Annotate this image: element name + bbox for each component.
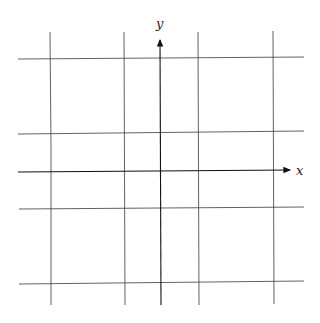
horizontal-line bbox=[18, 131, 304, 134]
vertical-line bbox=[124, 32, 125, 305]
vertical-line bbox=[198, 32, 199, 305]
vertical-grid-lines bbox=[50, 31, 274, 305]
vertical-line bbox=[50, 32, 51, 146]
vertical-line bbox=[273, 31, 274, 304]
horizontal-line bbox=[19, 281, 304, 284]
horizontal-line bbox=[19, 207, 304, 209]
x-axis-label: x bbox=[296, 163, 304, 178]
coordinate-grid-diagram: x y bbox=[0, 0, 320, 323]
y-axis-label: y bbox=[155, 16, 164, 31]
y-axis bbox=[160, 40, 161, 305]
horizontal-line bbox=[18, 57, 304, 59]
x-axis bbox=[18, 170, 290, 172]
